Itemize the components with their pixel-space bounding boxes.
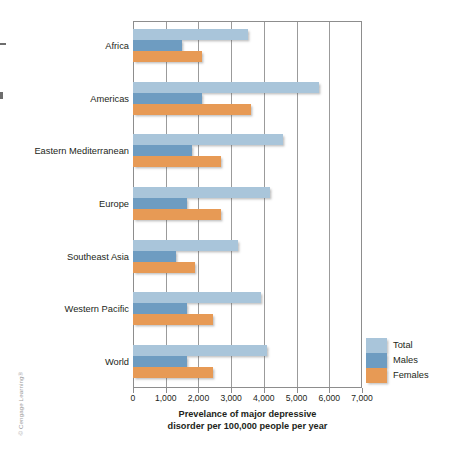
legend-item: Females	[366, 368, 454, 383]
bar-females	[133, 209, 221, 220]
bar-males	[133, 93, 202, 104]
x-axis-title: Prevelance of major depressive disorder …	[133, 408, 362, 432]
bar-males	[133, 198, 187, 209]
legend-item: Males	[366, 353, 454, 368]
bar-males	[133, 40, 182, 51]
category-label: Western Pacific	[0, 304, 129, 314]
bar-males	[133, 251, 176, 262]
category-axis-labels: AfricaAmericasEastern MediterraneanEurop…	[0, 21, 129, 388]
legend-label: Total	[393, 340, 413, 350]
category-label: Europe	[0, 199, 129, 209]
x-axis-tick-labels: 01,0002,0003,0004,0005,0006,0007,000	[0, 393, 457, 407]
x-tick-label: 4,000	[253, 393, 275, 403]
x-axis-title-line2: disorder per 100,000 people per year	[133, 420, 362, 432]
x-tick-label: 7,000	[351, 393, 373, 403]
bar-males	[133, 303, 187, 314]
bar-females	[133, 156, 221, 167]
bar-total	[133, 240, 238, 251]
x-axis-title-line1: Prevelance of major depressive	[133, 408, 362, 420]
bar-males	[133, 356, 187, 367]
bar-males	[133, 145, 192, 156]
bar-total	[133, 82, 319, 93]
x-tick-label: 2,000	[188, 393, 210, 403]
category-label: Africa	[0, 41, 129, 51]
x-tick-label: 6,000	[319, 393, 341, 403]
legend-label: Males	[393, 355, 418, 365]
category-label: Americas	[0, 94, 129, 104]
bar-group	[133, 29, 362, 63]
bar-females	[133, 314, 213, 325]
bar-group	[133, 187, 362, 221]
bar-total	[133, 29, 248, 40]
x-tick-label: 0	[131, 393, 136, 403]
x-tick-label: 1,000	[155, 393, 177, 403]
bar-group	[133, 345, 362, 379]
legend-swatch	[366, 338, 387, 353]
legend-label: Females	[393, 370, 429, 380]
legend-item: Total	[366, 338, 454, 353]
chart-legend: TotalMalesFemales	[366, 338, 454, 383]
category-label: Southeast Asia	[0, 252, 129, 262]
x-tick-label: 5,000	[286, 393, 308, 403]
bar-group	[133, 240, 362, 274]
bar-total	[133, 134, 283, 145]
bar-group	[133, 82, 362, 116]
legend-swatch	[366, 368, 387, 383]
x-tick-label: 3,000	[220, 393, 242, 403]
bars-layer	[133, 21, 362, 388]
legend-swatch	[366, 353, 387, 368]
category-label: Eastern Mediterranean	[0, 146, 129, 156]
bar-females	[133, 51, 202, 62]
bar-group	[133, 292, 362, 326]
bar-total	[133, 345, 267, 356]
bar-total	[133, 292, 261, 303]
bar-females	[133, 367, 213, 378]
chart-figure: © Cengage Learning® AfricaAmericasEaster…	[0, 0, 457, 449]
bar-females	[133, 262, 195, 273]
category-label: World	[0, 357, 129, 367]
bar-group	[133, 134, 362, 168]
bar-total	[133, 187, 270, 198]
bar-females	[133, 104, 251, 115]
